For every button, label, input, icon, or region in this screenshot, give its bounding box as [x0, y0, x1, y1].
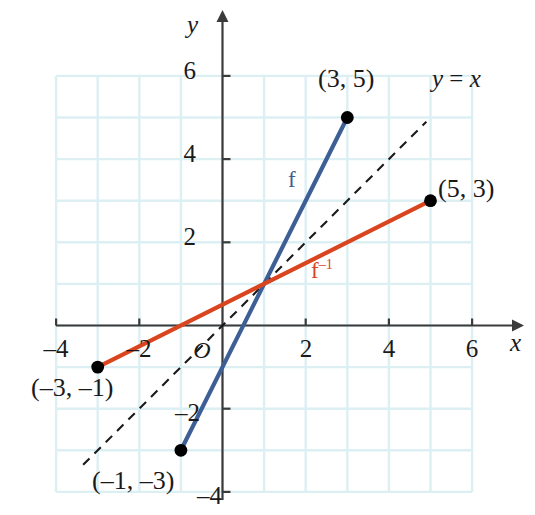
data-point-dot [424, 194, 437, 207]
x-tick-label-neg4: –4 [44, 336, 69, 361]
y-equals-x-operator: = [443, 65, 470, 92]
curve-label-f: f [288, 168, 296, 191]
point-label-neg3-neg1: (–3, –1) [31, 375, 113, 401]
x-tick-label-6: 6 [466, 336, 479, 361]
f-inverse-exponent: –1 [319, 256, 333, 272]
y-tick-label-neg4: –4 [197, 483, 222, 508]
x-axis-label: x [510, 330, 521, 355]
y-equals-x-rhs: x [470, 65, 481, 92]
y-axis-label: y [187, 12, 198, 37]
x-tick-label-4: 4 [383, 336, 396, 361]
y-tick-label-2: 2 [184, 224, 197, 249]
x-tick-label-2: 2 [300, 336, 313, 361]
point-label-5-3: (5, 3) [438, 176, 494, 202]
x-tick-label-neg2: –2 [127, 336, 152, 361]
point-label-neg1-neg3: (–1, –3) [92, 468, 174, 494]
label-y-equals-x: y = x [432, 66, 481, 91]
line-y-equals-x [83, 122, 426, 465]
y-tick-label-4: 4 [184, 141, 197, 166]
y-tick-label-6: 6 [184, 58, 197, 83]
origin-label: O [193, 338, 210, 362]
point-label-3-5: (3, 5) [318, 66, 374, 92]
y-tick-label-neg2: –2 [175, 400, 200, 425]
y-axis-arrowhead [217, 10, 229, 22]
data-point-dot [175, 444, 188, 457]
curve-label-f-inverse: f–1 [311, 259, 333, 282]
graph-figure: 6 4 2 –2 –4 –4 –2 2 4 6 O x y (3, 5) (5,… [0, 0, 535, 515]
data-point-dot [91, 361, 104, 374]
data-point-dot [341, 111, 354, 124]
f-inverse-base: f [311, 258, 319, 283]
y-equals-x-lhs: y [432, 65, 443, 92]
